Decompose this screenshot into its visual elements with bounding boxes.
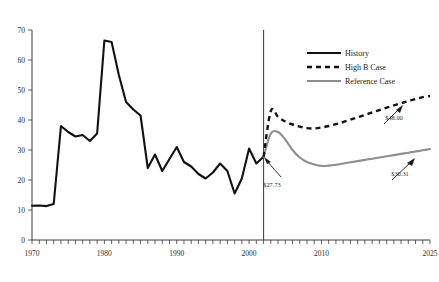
chart-container: 010203040506070 197019801990200020102025… [0,0,439,282]
x-axis: 197019801990200020102025 [25,240,438,258]
y-tick-label: 0 [21,236,25,245]
legend-label-high-b-case: High B Case [345,63,386,72]
annotation-label-history-end: $27.73 [263,181,281,188]
x-tick-label: 2010 [314,249,329,258]
legend-label-reference-case: Reference Case [345,77,395,86]
series-line-history [32,41,264,207]
y-tick-label: 50 [18,86,26,95]
annotation-label-high-b-end: $48.00 [385,114,403,121]
x-tick-label: 1980 [97,249,112,258]
series-line-high-b-case [264,96,430,157]
annotation-arrow-head-48 [396,105,403,113]
x-axis-tick-labels: 197019801990200020102025 [25,249,438,258]
y-axis-ticks: 010203040506070 [18,26,33,245]
legend: History High B Case Reference Case [307,49,395,86]
x-tick-label: 2025 [423,249,438,258]
oil-price-projection-chart: 010203040506070 197019801990200020102025… [0,0,439,282]
x-tick-label: 1970 [25,249,40,258]
y-tick-label: 70 [18,26,26,35]
y-tick-label: 40 [18,116,26,125]
annotation-history-end: $27.73 [263,157,281,188]
y-tick-label: 20 [18,176,26,185]
annotation-arrow-head-27 [264,157,271,164]
x-tick-label: 1990 [169,249,184,258]
y-tick-label: 30 [18,146,26,155]
y-tick-label: 10 [18,206,26,215]
x-tick-label: 2000 [242,249,257,258]
annotation-reference-end: $30.31 [391,158,415,180]
x-axis-minor-ticks [32,240,430,244]
annotation-label-reference-end: $30.31 [391,170,409,177]
legend-label-history: History [345,49,369,58]
series-line-reference-case [264,131,430,166]
y-tick-label: 60 [18,56,26,65]
y-axis: 010203040506070 [18,26,33,245]
